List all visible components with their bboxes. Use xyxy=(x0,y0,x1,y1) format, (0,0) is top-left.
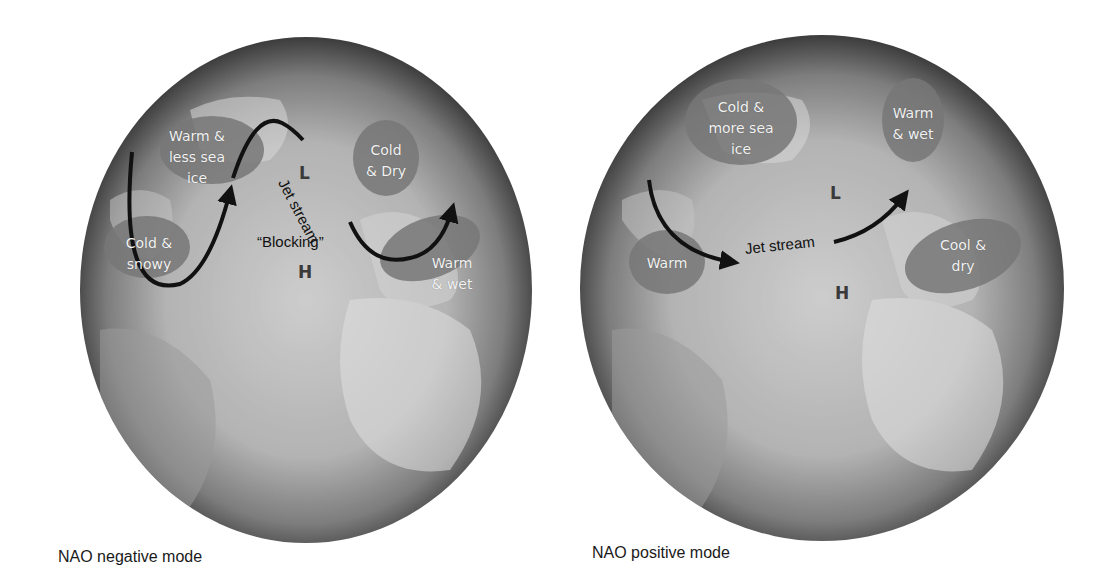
high-pressure-marker-neg: H xyxy=(298,262,312,282)
label-warm-less-sea-ice: Warm & less sea ice xyxy=(160,126,234,189)
low-pressure-marker-neg: L xyxy=(299,163,310,183)
label-blocking: “Blocking” xyxy=(257,233,324,250)
high-pressure-marker-pos: H xyxy=(835,283,849,303)
globe-nao-positive xyxy=(552,0,1103,584)
panel-nao-positive: Cold & more sea ice Warm Warm & wet Cool… xyxy=(552,0,1103,584)
panel-nao-negative: Warm & less sea ice Cold & snowy Cold & … xyxy=(0,0,552,584)
label-cold-dry: Cold & Dry xyxy=(355,140,417,182)
caption-nao-positive: NAO positive mode xyxy=(592,544,730,562)
label-cool-dry: Cool & dry xyxy=(932,235,994,277)
label-warm-wet-neg: Warm & wet xyxy=(422,253,482,295)
caption-nao-negative: NAO negative mode xyxy=(58,548,202,566)
low-pressure-marker-pos: L xyxy=(830,183,841,203)
label-warm-wet-pos: Warm & wet xyxy=(883,103,943,145)
label-cold-snowy: Cold & snowy xyxy=(116,233,182,275)
label-cold-more-sea-ice: Cold & more sea ice xyxy=(702,97,780,160)
label-warm: Warm xyxy=(637,253,697,274)
